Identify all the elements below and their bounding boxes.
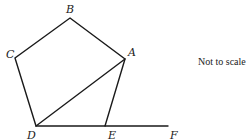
label-b: B — [65, 3, 74, 16]
pentagon-diagram: B C A D E F Not to scale — [0, 0, 252, 140]
diagonal-ad — [36, 59, 125, 126]
label-d: D — [26, 129, 36, 140]
label-c: C — [6, 48, 15, 61]
label-f: F — [169, 129, 178, 140]
not-to-scale-note: Not to scale — [198, 56, 246, 67]
label-e: E — [107, 129, 116, 140]
label-a: A — [127, 46, 136, 59]
